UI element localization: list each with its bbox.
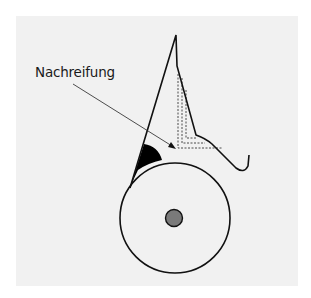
diagram-canvas xyxy=(0,0,311,298)
nachreifung-label: Nachreifung xyxy=(35,64,115,80)
roller-axle xyxy=(166,210,183,227)
label-arrow-line xyxy=(73,84,172,146)
arrow-head-icon xyxy=(168,142,176,149)
